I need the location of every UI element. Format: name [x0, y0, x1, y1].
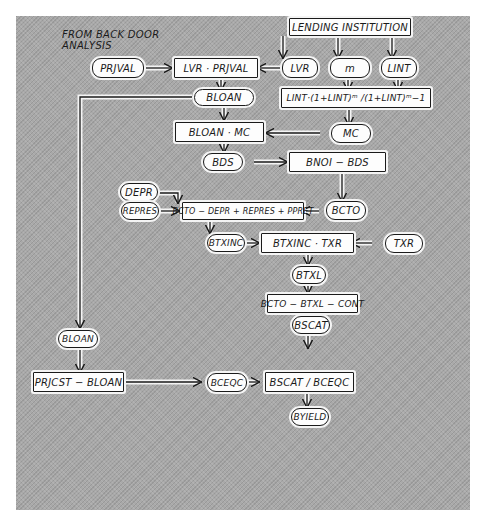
node-mc: MC: [331, 124, 371, 143]
node-depr: DEPR: [120, 183, 158, 201]
node-btxinc: BTXINC: [207, 234, 245, 252]
node-lending-institution: LENDING INSTITUTION: [289, 18, 411, 36]
node-bceqc: BCEQC: [207, 373, 247, 392]
node-prjcst-bloan: PRJCST − BLOAN: [33, 372, 124, 392]
node-bloan-left: BLOAN: [58, 330, 98, 348]
annotation-line-1: FROM BACK DOOR: [62, 29, 159, 40]
annotation-line-2: ANALYSIS: [62, 40, 159, 51]
node-mortgage-constant-formula: LINT·(1+LINT)ᵐ /(1+LINT)ᵐ−1: [281, 88, 431, 108]
node-bcto: BCTO: [326, 201, 366, 220]
node-bscat-bceqc: BSCAT / BCEQC: [265, 372, 354, 392]
node-bcto-btxl-cont: BCTO − BTXL − CONT: [267, 294, 358, 313]
node-bloan: BLOAN: [194, 89, 254, 106]
node-bds: BDS: [203, 153, 243, 171]
node-prjval: PRJVAL: [92, 58, 144, 78]
node-lint: LINT: [381, 58, 417, 78]
node-bnoi-bds: BNOI − BDS: [289, 152, 386, 172]
node-lvr: LVR: [282, 58, 318, 78]
node-bcto-formula: BCTO − DEPR + REPRES + PPRET: [182, 202, 304, 220]
node-btxl: BTXL: [292, 266, 326, 284]
node-bloan-mc: BLOAN · MC: [175, 122, 264, 142]
node-repres: REPRES: [121, 202, 159, 220]
node-m: m: [330, 58, 370, 78]
node-byield: BYIELD: [291, 408, 329, 426]
node-lvr-prjval: LVR · PRJVAL: [174, 58, 258, 78]
node-txr: TXR: [385, 234, 423, 253]
node-btxinc-txr: BTXINC · TXR: [261, 233, 354, 253]
node-bscat: BSCAT: [292, 316, 330, 334]
annotation-from-back-door: FROM BACK DOOR ANALYSIS: [62, 29, 159, 51]
